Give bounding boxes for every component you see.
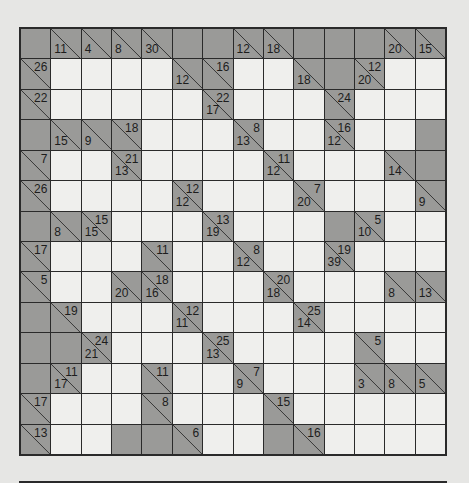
entry-cell[interactable] <box>416 425 445 454</box>
entry-cell[interactable] <box>173 364 202 393</box>
entry-cell[interactable] <box>234 59 263 88</box>
entry-cell[interactable] <box>173 242 202 271</box>
entry-cell[interactable] <box>416 303 445 332</box>
entry-cell[interactable] <box>82 303 111 332</box>
entry-cell[interactable] <box>325 181 354 210</box>
entry-cell[interactable] <box>82 59 111 88</box>
entry-cell[interactable] <box>385 59 414 88</box>
entry-cell[interactable] <box>234 333 263 362</box>
entry-cell[interactable] <box>51 151 80 180</box>
entry-cell[interactable] <box>264 181 293 210</box>
entry-cell[interactable] <box>51 59 80 88</box>
entry-cell[interactable] <box>203 120 232 149</box>
entry-cell[interactable] <box>203 394 232 423</box>
entry-cell[interactable] <box>82 151 111 180</box>
entry-cell[interactable] <box>325 333 354 362</box>
entry-cell[interactable] <box>173 272 202 301</box>
entry-cell[interactable] <box>173 151 202 180</box>
entry-cell[interactable] <box>234 272 263 301</box>
entry-cell[interactable] <box>82 394 111 423</box>
entry-cell[interactable] <box>264 333 293 362</box>
entry-cell[interactable] <box>234 90 263 119</box>
entry-cell[interactable] <box>264 212 293 241</box>
entry-cell[interactable] <box>112 333 141 362</box>
entry-cell[interactable] <box>51 272 80 301</box>
entry-cell[interactable] <box>112 90 141 119</box>
entry-cell[interactable] <box>355 120 384 149</box>
entry-cell[interactable] <box>385 90 414 119</box>
entry-cell[interactable] <box>355 394 384 423</box>
entry-cell[interactable] <box>355 242 384 271</box>
entry-cell[interactable] <box>112 181 141 210</box>
entry-cell[interactable] <box>325 272 354 301</box>
entry-cell[interactable] <box>385 394 414 423</box>
entry-cell[interactable] <box>173 394 202 423</box>
entry-cell[interactable] <box>51 181 80 210</box>
entry-cell[interactable] <box>294 120 323 149</box>
entry-cell[interactable] <box>416 212 445 241</box>
entry-cell[interactable] <box>112 59 141 88</box>
entry-cell[interactable] <box>294 364 323 393</box>
entry-cell[interactable] <box>385 181 414 210</box>
entry-cell[interactable] <box>203 151 232 180</box>
entry-cell[interactable] <box>325 425 354 454</box>
entry-cell[interactable] <box>82 90 111 119</box>
entry-cell[interactable] <box>294 151 323 180</box>
entry-cell[interactable] <box>112 212 141 241</box>
entry-cell[interactable] <box>385 425 414 454</box>
entry-cell[interactable] <box>264 120 293 149</box>
entry-cell[interactable] <box>173 333 202 362</box>
entry-cell[interactable] <box>355 303 384 332</box>
entry-cell[interactable] <box>416 333 445 362</box>
entry-cell[interactable] <box>51 90 80 119</box>
entry-cell[interactable] <box>416 59 445 88</box>
entry-cell[interactable] <box>142 90 171 119</box>
entry-cell[interactable] <box>203 272 232 301</box>
entry-cell[interactable] <box>234 303 263 332</box>
entry-cell[interactable] <box>385 242 414 271</box>
entry-cell[interactable] <box>385 303 414 332</box>
entry-cell[interactable] <box>203 181 232 210</box>
entry-cell[interactable] <box>82 272 111 301</box>
entry-cell[interactable] <box>294 272 323 301</box>
entry-cell[interactable] <box>264 90 293 119</box>
entry-cell[interactable] <box>264 364 293 393</box>
entry-cell[interactable] <box>294 90 323 119</box>
entry-cell[interactable] <box>294 212 323 241</box>
entry-cell[interactable] <box>82 425 111 454</box>
entry-cell[interactable] <box>385 120 414 149</box>
entry-cell[interactable] <box>51 425 80 454</box>
entry-cell[interactable] <box>325 394 354 423</box>
entry-cell[interactable] <box>142 181 171 210</box>
entry-cell[interactable] <box>173 120 202 149</box>
entry-cell[interactable] <box>142 120 171 149</box>
entry-cell[interactable] <box>82 364 111 393</box>
entry-cell[interactable] <box>234 181 263 210</box>
entry-cell[interactable] <box>203 364 232 393</box>
entry-cell[interactable] <box>355 425 384 454</box>
entry-cell[interactable] <box>385 333 414 362</box>
entry-cell[interactable] <box>112 364 141 393</box>
entry-cell[interactable] <box>142 151 171 180</box>
entry-cell[interactable] <box>416 90 445 119</box>
entry-cell[interactable] <box>82 242 111 271</box>
entry-cell[interactable] <box>416 394 445 423</box>
entry-cell[interactable] <box>112 394 141 423</box>
entry-cell[interactable] <box>234 151 263 180</box>
entry-cell[interactable] <box>325 151 354 180</box>
entry-cell[interactable] <box>142 333 171 362</box>
entry-cell[interactable] <box>264 303 293 332</box>
entry-cell[interactable] <box>142 59 171 88</box>
entry-cell[interactable] <box>112 303 141 332</box>
entry-cell[interactable] <box>203 425 232 454</box>
entry-cell[interactable] <box>112 242 141 271</box>
entry-cell[interactable] <box>142 303 171 332</box>
entry-cell[interactable] <box>234 212 263 241</box>
entry-cell[interactable] <box>82 181 111 210</box>
entry-cell[interactable] <box>325 303 354 332</box>
entry-cell[interactable] <box>234 394 263 423</box>
entry-cell[interactable] <box>234 425 263 454</box>
entry-cell[interactable] <box>416 242 445 271</box>
entry-cell[interactable] <box>355 151 384 180</box>
entry-cell[interactable] <box>264 59 293 88</box>
